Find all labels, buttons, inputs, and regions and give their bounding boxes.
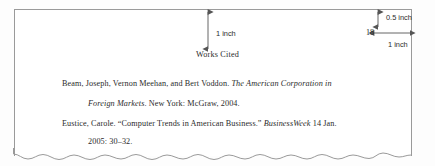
citation-segment: 14 Jan.	[311, 119, 337, 128]
citation-segment-italic: BusinessWeek	[264, 119, 311, 128]
citation-line-2: Foreign Markets. New York: McGraw, 2004.	[88, 99, 240, 108]
citation-segment: Eustice, Carole. “Computer Trends in Ame…	[62, 119, 264, 128]
citation-segment-italic: Foreign Markets	[88, 99, 144, 108]
citation-line-3: Eustice, Carole. “Computer Trends in Ame…	[62, 119, 337, 128]
citation-line-1: Beam, Joseph, Vernon Meehan, and Bert Vo…	[62, 79, 332, 88]
top-margin-label: 1 inch	[216, 29, 236, 38]
header-offset-label: 0.5 inch	[386, 13, 412, 22]
figure-mla-works-cited-page: 1 inch 0.5 inch 1 inch 18 Works Cited Be…	[0, 0, 435, 166]
page-number: 18	[366, 28, 374, 37]
citation-segment-italic: The American Corporation in	[231, 79, 331, 88]
works-cited-heading: Works Cited	[0, 50, 435, 59]
citation-segment: . New York: McGraw, 2004.	[144, 99, 239, 108]
right-margin-label: 1 inch	[388, 40, 408, 49]
citation-line-4: 2005: 30–32.	[88, 137, 132, 146]
citation-segment: 2005: 30–32.	[88, 137, 132, 146]
citation-segment: Beam, Joseph, Vernon Meehan, and Bert Vo…	[62, 79, 231, 88]
